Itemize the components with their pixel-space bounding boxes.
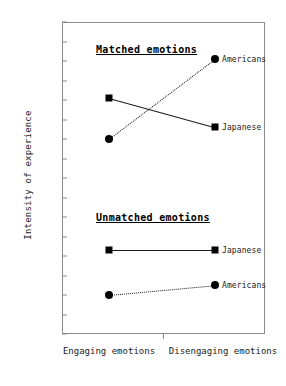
y-axis-title: Intensity of experience: [23, 75, 33, 275]
series-label-japanese: Japanese: [222, 123, 261, 132]
y-axis-tick-mark: [62, 334, 67, 335]
y-axis-tick-mark: [62, 139, 67, 140]
series-line-japanese-unmatched: [109, 250, 215, 251]
y-axis-tick-mark: [62, 119, 67, 120]
series-label-americans: Americans: [222, 281, 266, 290]
y-axis-tick-mark: [62, 295, 67, 296]
y-axis-tick-mark: [62, 61, 67, 62]
y-axis-tick-mark: [62, 197, 67, 198]
y-axis-tick-mark: [62, 100, 67, 101]
y-axis-tick-mark: [62, 275, 67, 276]
data-point-marker: [106, 247, 113, 254]
data-point-marker: [211, 281, 219, 289]
x-axis-center-tick: [163, 334, 164, 339]
data-point-marker: [105, 135, 113, 143]
y-axis-tick-mark: [62, 217, 67, 218]
chart-figure: Intensity of experience 1.801.701.601.50…: [0, 0, 286, 386]
series-label-japanese: Japanese: [222, 246, 261, 255]
data-point-marker: [211, 55, 219, 63]
y-axis-tick-mark: [62, 158, 67, 159]
data-point-marker: [106, 95, 113, 102]
series-label-americans: Americans: [222, 55, 266, 64]
y-axis-tick-mark: [62, 41, 67, 42]
y-axis-tick-mark: [62, 314, 67, 315]
data-point-marker: [212, 247, 219, 254]
group-heading-matched: Matched emotions: [96, 44, 197, 55]
data-point-marker: [212, 124, 219, 131]
y-axis-tick-mark: [62, 236, 67, 237]
data-point-marker: [105, 291, 113, 299]
x-axis-label-disengaging: Disengaging emotions: [168, 345, 278, 358]
group-heading-unmatched: Unmatched emotions: [96, 212, 210, 223]
y-axis-tick-mark: [62, 256, 67, 257]
y-axis-tick-mark: [62, 80, 67, 81]
y-axis-tick-mark: [62, 178, 67, 179]
x-axis-label-engaging: Engaging emotions: [46, 345, 172, 358]
y-axis-tick-mark: [62, 22, 67, 23]
